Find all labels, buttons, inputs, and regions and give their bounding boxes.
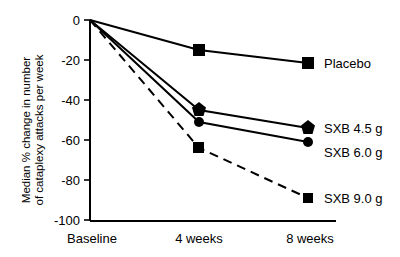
y-axis-label-line1: Median % change in number xyxy=(20,57,32,204)
x-tick-label-8-weeks: 8 weeks xyxy=(286,231,334,246)
series-line-placebo xyxy=(90,20,308,63)
chart-figure: Median % change in number of cataplexy a… xyxy=(0,0,400,257)
x-tick-label-4-weeks: 4 weeks xyxy=(175,231,223,246)
y-tick-label-2: -40 xyxy=(61,93,80,108)
data-point-placebo-4-weeks xyxy=(193,44,205,56)
data-point-sxb45-4-weeks xyxy=(192,102,206,116)
data-point-placebo-8-weeks xyxy=(302,57,314,69)
data-point-sxb60-4-weeks xyxy=(194,117,204,127)
legend-label-sxb90: SXB 9.0 g xyxy=(324,191,383,206)
y-tick-label-4: -80 xyxy=(61,173,80,188)
data-point-sxb45-8-weeks xyxy=(301,120,315,134)
y-tick-label-0: 0 xyxy=(73,13,80,28)
y-axis-label-line2: of cataplexy attacks per week xyxy=(33,54,45,205)
x-tick-label-baseline: Baseline xyxy=(67,231,117,246)
y-tick-label-5: -100 xyxy=(54,213,80,228)
legend-label-sxb60: SXB 6.0 g xyxy=(324,145,383,160)
line-chart: Median % change in number of cataplexy a… xyxy=(0,0,400,257)
data-point-sxb60-8-weeks xyxy=(303,137,313,147)
data-point-sxb90-8-weeks xyxy=(303,193,313,203)
y-tick-label-3: -60 xyxy=(61,133,80,148)
y-tick-label-1: -20 xyxy=(61,53,80,68)
legend-label-placebo: Placebo xyxy=(324,56,371,71)
data-point-sxb90-4-weeks xyxy=(193,142,204,153)
legend-label-sxb45: SXB 4.5 g xyxy=(324,121,383,136)
